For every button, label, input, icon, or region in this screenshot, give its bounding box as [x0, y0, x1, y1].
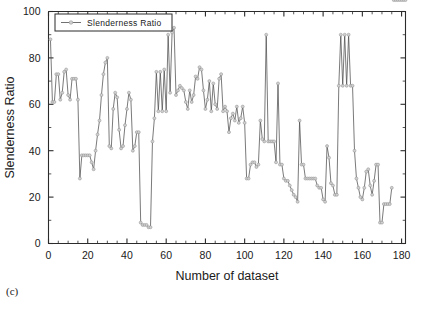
chart-legend: Slenderness Ratio — [55, 14, 172, 31]
series-data-point — [125, 107, 128, 110]
legend-marker-icon — [69, 21, 73, 25]
series-data-point — [263, 140, 266, 143]
series-data-point — [137, 131, 140, 134]
y-tick-label: 60 — [29, 98, 41, 110]
series-data-point — [237, 121, 240, 124]
series-data-point — [112, 107, 115, 110]
series-data-point — [335, 193, 338, 196]
x-tick-label: 100 — [236, 249, 254, 261]
series-data-point — [259, 119, 262, 122]
series-data-point — [388, 203, 391, 206]
series-data-point — [233, 119, 236, 122]
x-axis-title: Number of dataset — [176, 269, 279, 283]
series-polyline — [50, 28, 391, 228]
series-data-point — [326, 145, 329, 148]
series-data-point — [106, 56, 109, 59]
series-data-point — [298, 119, 301, 122]
series-data-point — [76, 98, 79, 101]
series-data-point — [273, 140, 276, 143]
series-data-point — [151, 140, 154, 143]
y-tick-label: 0 — [35, 237, 41, 249]
series-data-point — [353, 149, 356, 152]
series-data-point — [296, 200, 299, 203]
y-tick-label: 20 — [29, 191, 41, 203]
series-data-point — [347, 33, 350, 36]
series-data-point — [345, 84, 348, 87]
y-tick-label: 80 — [29, 52, 41, 64]
series-data-point — [94, 149, 97, 152]
figure-panel: 020406080100120140160180020406080100 Sle… — [0, 0, 421, 313]
series-data-point — [222, 110, 225, 113]
series-data-point — [67, 94, 70, 97]
series-data-point — [208, 80, 211, 83]
series-data-point — [159, 70, 162, 73]
series-data-point — [92, 168, 95, 171]
series-data-point — [247, 177, 250, 180]
series-data-point — [328, 156, 331, 159]
axis-tick-labels: 020406080100120140160180020406080100 — [23, 5, 411, 260]
series-data-point — [74, 77, 77, 80]
series-data-point — [241, 105, 244, 108]
series-data-point — [302, 163, 305, 166]
series-data-point — [280, 163, 283, 166]
series-data-point — [277, 82, 280, 85]
series-data-point — [131, 149, 134, 152]
x-tick-label: 0 — [46, 249, 52, 261]
series-data-point — [220, 73, 223, 76]
series-data-point — [343, 33, 346, 36]
series-data-point — [169, 91, 172, 94]
series-data-point — [116, 96, 119, 99]
series-data-point — [161, 110, 164, 113]
series-data-point — [192, 94, 195, 97]
series-data-point — [235, 105, 238, 108]
series-data-point — [114, 91, 117, 94]
series-data-point — [351, 84, 354, 87]
series-data-point — [100, 94, 103, 97]
series-data-point — [53, 100, 56, 103]
x-tick-label: 80 — [200, 249, 212, 261]
series-data-point — [182, 89, 185, 92]
series-data-point — [257, 163, 260, 166]
series-data-point — [102, 73, 105, 76]
series-data-point — [176, 89, 179, 92]
series-data-point — [202, 89, 205, 92]
series-data-point — [320, 186, 323, 189]
series-data-point — [314, 177, 317, 180]
series-data-point — [78, 177, 81, 180]
series-data-point — [243, 121, 246, 124]
series-data-point — [286, 179, 289, 182]
series-data-point — [265, 33, 268, 36]
y-tick-label: 100 — [23, 5, 41, 17]
series-data-point — [200, 68, 203, 71]
series-data-point — [110, 147, 113, 150]
series-data-point — [173, 26, 176, 29]
plot-frame — [49, 12, 406, 244]
series-data-point — [49, 38, 52, 41]
y-tick-label: 40 — [29, 145, 41, 157]
figure-caption: (c) — [6, 285, 18, 297]
series-data-point — [239, 117, 242, 120]
series-data-point — [226, 110, 229, 113]
series-data-point — [157, 110, 160, 113]
x-tick-label: 20 — [82, 249, 94, 261]
series-data-point — [153, 117, 156, 120]
series-data-point — [373, 179, 376, 182]
x-tick-label: 60 — [160, 249, 172, 261]
series-data-point — [188, 89, 191, 92]
axis-ticks — [49, 12, 406, 244]
series-data-point — [165, 110, 168, 113]
series-data-point — [404, 0, 407, 2]
slenderness-ratio-line-chart: 020406080100120140160180020406080100 Sle… — [0, 0, 421, 313]
series-data-point — [339, 33, 342, 36]
series-data-point — [69, 98, 72, 101]
series-data-point — [369, 184, 372, 187]
series-data-point — [218, 77, 221, 80]
series-data-point — [196, 77, 199, 80]
series-data-point — [61, 91, 64, 94]
series-data-point — [288, 184, 291, 187]
x-tick-label: 120 — [275, 249, 293, 261]
series-data-point — [122, 145, 125, 148]
x-tick-label: 180 — [393, 249, 411, 261]
series-data-point — [224, 105, 227, 108]
series-data-point — [377, 163, 380, 166]
